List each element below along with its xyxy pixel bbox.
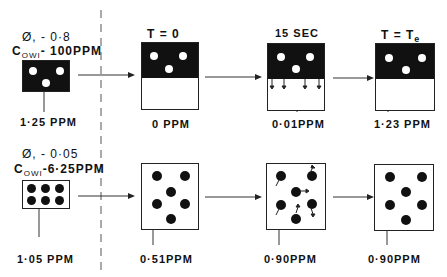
concentration-bottom-initial: 1·05 PPM xyxy=(17,253,74,265)
black-particle xyxy=(41,196,50,205)
black-particle xyxy=(41,184,50,193)
white-particle xyxy=(418,54,426,62)
concentration-top-initial: 1·25 PPM xyxy=(20,116,77,128)
black-particle xyxy=(55,196,64,205)
white-particle xyxy=(42,79,50,87)
black-particle xyxy=(55,184,64,193)
phi-label-bottom: Ø, - 0·05 xyxy=(22,147,78,161)
cowi-value: - 100PPM xyxy=(41,44,102,58)
concentration-top-t0: 0 PPM xyxy=(152,118,190,130)
stage-title-te-main: T = T xyxy=(381,28,414,42)
cowi-prefix: C xyxy=(14,162,24,176)
cowi-value: -6·25PPM xyxy=(43,162,105,176)
black-particle xyxy=(27,196,36,205)
stage-box-15sec-top xyxy=(267,43,325,111)
stage-box-t0-top xyxy=(141,42,199,110)
black-particle xyxy=(417,172,427,182)
black-particle xyxy=(417,200,427,210)
initial-droplet-bottom xyxy=(22,180,70,209)
black-particle xyxy=(27,184,36,193)
black-particle xyxy=(180,199,190,209)
white-particle xyxy=(402,66,410,74)
black-particle xyxy=(385,172,395,182)
black-particle xyxy=(180,171,190,181)
white-particle xyxy=(29,67,37,75)
stage-title-15sec: 15 SEC xyxy=(275,27,319,39)
black-particle xyxy=(401,187,411,197)
concentration-top-te: 1·23 PPM xyxy=(374,118,431,130)
black-particle xyxy=(401,215,411,225)
stage-title-t0: T = 0 xyxy=(147,27,180,41)
white-particle xyxy=(165,65,173,73)
white-particle xyxy=(56,67,64,75)
black-particle xyxy=(152,199,162,209)
black-particle xyxy=(166,214,176,224)
white-particle xyxy=(385,54,393,62)
concentration-bottom-te: 0·90PPM xyxy=(368,253,421,265)
phi-label-top: Ø, - 0·8 xyxy=(22,30,71,44)
white-particle xyxy=(179,52,187,60)
stage-box-te-bottom xyxy=(374,164,434,231)
stage-title-te: T = Te xyxy=(381,28,420,44)
diffusion-arrows xyxy=(267,43,325,111)
black-particle xyxy=(385,200,395,210)
concentration-bottom-t0: 0·51PPM xyxy=(140,253,193,265)
cowi-sub: OWI xyxy=(24,169,43,178)
stage-box-t0-bottom xyxy=(141,163,199,230)
initial-droplet-top xyxy=(22,60,70,92)
stage-box-te-top xyxy=(375,43,435,111)
black-particle xyxy=(166,187,176,197)
concentration-top-15sec: 0·01PPM xyxy=(272,118,325,130)
stage-box-15sec-bottom xyxy=(266,163,326,230)
white-particle xyxy=(150,52,158,60)
concentration-bottom-15sec: 0·90PPM xyxy=(264,253,317,265)
cowi-prefix: C xyxy=(12,44,22,58)
release-arrows xyxy=(266,163,326,230)
cowi-label-top: COWI- 100PPM xyxy=(12,44,102,60)
cowi-label-bottom: COWI-6·25PPM xyxy=(14,162,105,178)
black-particle xyxy=(152,171,162,181)
